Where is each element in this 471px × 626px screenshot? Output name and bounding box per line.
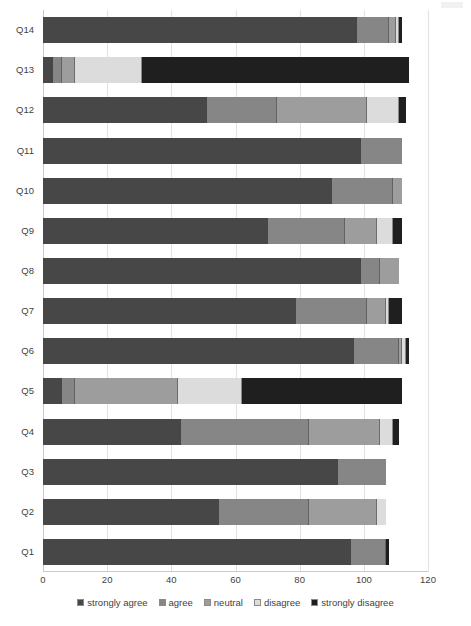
bar-segment-strongly-agree[interactable] — [43, 378, 62, 404]
bar-segment-strongly-agree[interactable] — [43, 459, 338, 485]
bar-segment-agree[interactable] — [338, 459, 386, 485]
y-axis-category-labels: Q14Q13Q12Q11Q10Q9Q8Q7Q6Q5Q4Q3Q2Q1 — [0, 10, 40, 572]
bar-segment-agree[interactable] — [354, 338, 399, 364]
bar-segment-agree[interactable] — [53, 57, 63, 83]
bar-segment-strongly-disagree[interactable] — [142, 57, 408, 83]
y-axis-label-q11: Q11 — [17, 146, 34, 156]
bar-segment-strongly-agree[interactable] — [43, 138, 361, 164]
bar-segment-strongly-agree[interactable] — [43, 338, 354, 364]
bar-segment-strongly-agree[interactable] — [43, 17, 357, 43]
bar-segment-disagree[interactable] — [178, 378, 242, 404]
bar-segment-strongly-disagree[interactable] — [399, 97, 405, 123]
bar-segment-neutral[interactable] — [367, 298, 386, 324]
bar-segment-strongly-agree[interactable] — [43, 57, 53, 83]
bar-row — [43, 419, 428, 445]
bar-segment-disagree[interactable] — [75, 57, 142, 83]
legend-swatch-icon — [254, 599, 261, 606]
bar-segment-disagree[interactable] — [367, 97, 399, 123]
bar-segment-strongly-agree[interactable] — [43, 539, 351, 565]
stacked-bar-q3[interactable] — [43, 459, 386, 485]
bar-segment-agree[interactable] — [361, 138, 403, 164]
stacked-bar-q11[interactable] — [43, 138, 402, 164]
y-axis-label-q9: Q9 — [21, 226, 34, 236]
bar-segment-strongly-agree[interactable] — [43, 419, 181, 445]
bar-segment-strongly-disagree[interactable] — [393, 419, 399, 445]
stacked-bar-q9[interactable] — [43, 218, 402, 244]
bar-segment-agree[interactable] — [181, 419, 309, 445]
stacked-bar-q8[interactable] — [43, 258, 399, 284]
legend-item-neutral[interactable]: neutral — [204, 598, 243, 608]
bar-segment-agree[interactable] — [357, 17, 389, 43]
bar-segment-agree[interactable] — [332, 178, 393, 204]
bar-segment-disagree[interactable] — [377, 218, 393, 244]
legend-item-disagree[interactable]: disagree — [254, 598, 300, 608]
stacked-bar-q6[interactable] — [43, 338, 409, 364]
bar-segment-strongly-agree[interactable] — [43, 258, 361, 284]
bar-segment-strongly-agree[interactable] — [43, 218, 268, 244]
bar-segment-neutral[interactable] — [393, 178, 403, 204]
bar-segment-neutral[interactable] — [75, 378, 178, 404]
y-axis-label-q5: Q5 — [21, 386, 34, 396]
bar-segment-strongly-agree[interactable] — [43, 97, 207, 123]
y-axis-label-q7: Q7 — [21, 306, 34, 316]
x-axis-tick-labels: 020406080100120 — [0, 575, 471, 591]
bar-segment-strongly-agree[interactable] — [43, 298, 296, 324]
bar-segment-neutral[interactable] — [309, 499, 376, 525]
bar-segment-neutral[interactable] — [380, 258, 399, 284]
bar-row — [43, 138, 428, 164]
stacked-bar-chart: Q14Q13Q12Q11Q10Q9Q8Q7Q6Q5Q4Q3Q2Q1 020406… — [0, 0, 471, 626]
bar-segment-neutral[interactable] — [277, 97, 367, 123]
bar-segment-neutral[interactable] — [62, 57, 75, 83]
bar-segment-strongly-disagree[interactable] — [393, 218, 403, 244]
stacked-bar-q5[interactable] — [43, 378, 402, 404]
stacked-bar-q14[interactable] — [43, 17, 402, 43]
legend-item-strongly-agree[interactable]: strongly agree — [77, 598, 147, 608]
stacked-bar-q7[interactable] — [43, 298, 402, 324]
bar-row — [43, 178, 428, 204]
bar-segment-strongly-disagree[interactable] — [386, 539, 389, 565]
y-axis-label-q12: Q12 — [16, 105, 34, 115]
bar-segment-disagree[interactable] — [380, 419, 393, 445]
legend-label: strongly disagree — [321, 598, 393, 608]
y-axis-label-q14: Q14 — [16, 25, 34, 35]
bar-segment-neutral[interactable] — [345, 218, 377, 244]
bar-segment-strongly-disagree[interactable] — [406, 338, 409, 364]
bar-segment-disagree[interactable] — [377, 499, 387, 525]
bar-segment-agree[interactable] — [296, 298, 367, 324]
y-axis-label-q3: Q3 — [21, 467, 34, 477]
bar-segment-agree[interactable] — [219, 499, 309, 525]
bar-row — [43, 97, 428, 123]
bar-segment-strongly-agree[interactable] — [43, 178, 332, 204]
bar-segment-neutral[interactable] — [309, 419, 380, 445]
stacked-bar-q10[interactable] — [43, 178, 402, 204]
stacked-bar-q2[interactable] — [43, 499, 386, 525]
bar-row — [43, 378, 428, 404]
legend-item-agree[interactable]: agree — [159, 598, 193, 608]
bar-segment-agree[interactable] — [268, 218, 345, 244]
y-axis-label-q8: Q8 — [21, 266, 34, 276]
stacked-bar-q1[interactable] — [43, 539, 390, 565]
x-axis-tick-100: 100 — [356, 575, 372, 585]
bar-segment-strongly-disagree[interactable] — [242, 378, 402, 404]
legend-item-strongly-disagree[interactable]: strongly disagree — [311, 598, 393, 608]
legend-swatch-icon — [159, 599, 166, 606]
bar-segment-strongly-disagree[interactable] — [399, 17, 402, 43]
legend-label: agree — [169, 598, 193, 608]
stacked-bar-q4[interactable] — [43, 419, 399, 445]
bar-segment-strongly-disagree[interactable] — [389, 298, 402, 324]
bar-segment-agree[interactable] — [351, 539, 386, 565]
stacked-bar-q12[interactable] — [43, 97, 406, 123]
plot-area — [43, 10, 428, 572]
legend-swatch-icon — [77, 599, 84, 606]
legend-label: neutral — [214, 598, 243, 608]
bar-segment-strongly-agree[interactable] — [43, 499, 219, 525]
bar-row — [43, 338, 428, 364]
bar-segment-agree[interactable] — [62, 378, 75, 404]
stacked-bar-q13[interactable] — [43, 57, 409, 83]
x-axis-tick-0: 0 — [40, 575, 45, 585]
legend-label: disagree — [264, 598, 300, 608]
legend-swatch-icon — [204, 599, 211, 606]
x-axis-tick-40: 40 — [166, 575, 177, 585]
bar-segment-agree[interactable] — [361, 258, 380, 284]
bar-segment-agree[interactable] — [207, 97, 278, 123]
